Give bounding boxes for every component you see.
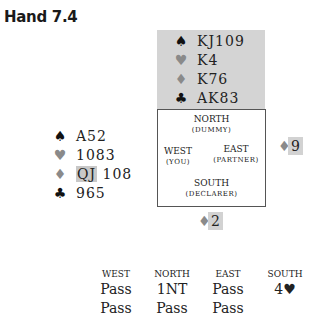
heart-icon: ♥ bbox=[50, 146, 70, 164]
diamond-icon: ♦ bbox=[198, 212, 208, 230]
diamond-icon: ♦ bbox=[171, 70, 191, 88]
compass-east: EAST(PARTNER) bbox=[208, 144, 264, 166]
club-icon: ♣ bbox=[171, 89, 191, 107]
compass-west: WEST(YOU) bbox=[160, 146, 196, 168]
north-hand: ♠KJ109 ♥K4 ♦K76 ♣AK83 bbox=[157, 30, 265, 109]
east-played-card: ♦9 bbox=[278, 137, 303, 155]
west-hearts: ♥1083 bbox=[50, 146, 116, 164]
compass-south: SOUTH(DECLARER) bbox=[158, 178, 265, 200]
highlighted-cards: QJ bbox=[76, 166, 97, 182]
spade-icon: ♠ bbox=[50, 127, 70, 145]
auction-col-south: SOUTH 4♥ bbox=[255, 268, 315, 299]
north-clubs: ♣AK83 bbox=[171, 89, 239, 107]
north-spades: ♠KJ109 bbox=[171, 32, 245, 50]
south-played-card: ♦2 bbox=[198, 212, 223, 230]
heart-icon: ♥ bbox=[171, 51, 191, 69]
compass-north: NORTH(DUMMY) bbox=[158, 114, 265, 136]
west-clubs: ♣965 bbox=[50, 184, 106, 202]
auction-col-west: WEST Pass Pass bbox=[86, 268, 146, 318]
auction-col-north: NORTH 1NT Pass bbox=[142, 268, 202, 318]
north-hearts: ♥K4 bbox=[171, 51, 218, 69]
auction-col-east: EAST Pass Pass bbox=[198, 268, 258, 318]
spade-icon: ♠ bbox=[171, 32, 191, 50]
diamond-icon: ♦ bbox=[50, 165, 70, 183]
diamond-icon: ♦ bbox=[278, 137, 288, 155]
compass-box: NORTH(DUMMY) WEST(YOU) EAST(PARTNER) SOU… bbox=[157, 109, 266, 207]
hand-title: Hand 7.4 bbox=[4, 8, 78, 26]
west-diamonds: ♦QJ 108 bbox=[50, 165, 132, 183]
north-diamonds: ♦K76 bbox=[171, 70, 228, 88]
west-hand: ♠A52 ♥1083 ♦QJ 108 ♣965 bbox=[50, 127, 150, 202]
club-icon: ♣ bbox=[50, 184, 70, 202]
west-spades: ♠A52 bbox=[50, 127, 107, 145]
